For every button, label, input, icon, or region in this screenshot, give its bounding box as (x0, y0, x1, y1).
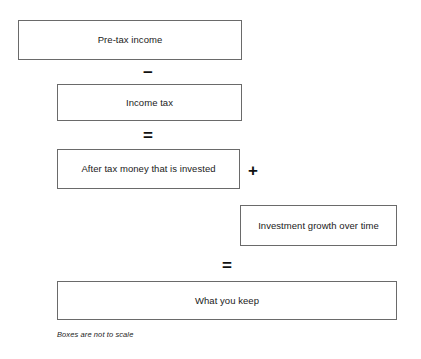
box-label-what-you-keep: What you keep (195, 295, 259, 306)
operator-equals-icon-2: = (217, 256, 237, 274)
footnote-not-to-scale: Boxes are not to scale (57, 330, 133, 339)
box-after-tax-invested: After tax money that is invested (57, 149, 240, 189)
box-what-you-keep: What you keep (57, 281, 397, 320)
box-label-income-tax: Income tax (126, 97, 173, 108)
operator-equals-icon: = (138, 126, 158, 144)
operator-minus-icon: − (138, 63, 158, 81)
diagram-canvas: Pre-tax income − Income tax = After tax … (0, 0, 421, 359)
box-investment-growth: Investment growth over time (240, 205, 397, 246)
box-label-pre-tax-income: Pre-tax income (98, 34, 163, 45)
operator-plus-icon: + (243, 160, 263, 180)
box-label-after-tax-invested: After tax money that is invested (81, 163, 215, 174)
box-label-investment-growth: Investment growth over time (258, 220, 379, 231)
box-pre-tax-income: Pre-tax income (18, 20, 242, 60)
box-income-tax: Income tax (57, 84, 242, 121)
